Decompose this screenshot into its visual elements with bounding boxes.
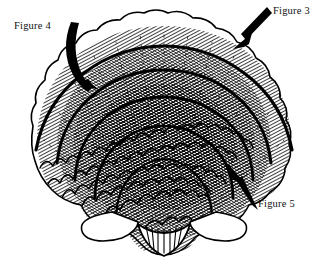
label-figure-5: Figure 5 <box>258 198 295 210</box>
label-figure-3: Figure 3 <box>273 5 310 17</box>
scallop-shell-illustration <box>0 0 328 273</box>
arrow-figure-3-shaft <box>241 7 272 40</box>
figure-page: Figure 4 Figure 3 Figure 5 <box>0 0 328 273</box>
label-figure-4: Figure 4 <box>14 20 51 32</box>
